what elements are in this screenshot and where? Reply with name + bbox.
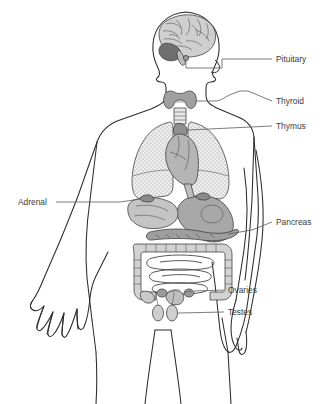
liver <box>128 198 178 229</box>
leader-testes <box>178 312 224 313</box>
label-testes: Testes <box>228 307 252 317</box>
label-pituitary: Pituitary <box>276 54 307 64</box>
uterus <box>166 291 184 305</box>
testis-right <box>167 305 178 321</box>
leg-left-outer <box>96 352 97 404</box>
leg-right-outer <box>228 352 231 404</box>
label-ovaries: Ovaries <box>228 285 257 295</box>
pituitary-gland <box>183 55 188 60</box>
label-adrenal: Adrenal <box>18 197 47 207</box>
human-endocrine-diagram: Pituitary Thyroid Thymus Pancreas Ovarie… <box>0 0 326 404</box>
leg-left-inner <box>145 330 155 404</box>
ovary-left <box>157 289 167 297</box>
trachea-group <box>174 108 186 124</box>
label-thymus: Thymus <box>276 121 306 131</box>
ovary-right <box>184 289 194 297</box>
ovaries-group <box>157 289 194 305</box>
label-pancreas: Pancreas <box>276 217 311 227</box>
leader-thyroid <box>196 91 272 101</box>
diagram-canvas: Pituitary Thyroid Thymus Pancreas Ovarie… <box>0 0 326 404</box>
small-intestine <box>147 255 214 294</box>
adrenal-gland-right <box>196 193 210 200</box>
leg-right-inner <box>171 330 181 404</box>
hip-left <box>92 320 96 352</box>
callout-thyroid[interactable]: Thyroid <box>196 91 304 106</box>
adrenal-gland-left <box>140 195 154 202</box>
thyroid-group <box>164 91 197 108</box>
callout-testes[interactable]: Testes <box>178 307 252 317</box>
testis-left <box>153 305 164 321</box>
label-thyroid: Thyroid <box>276 96 304 106</box>
thyroid-gland <box>164 91 197 108</box>
